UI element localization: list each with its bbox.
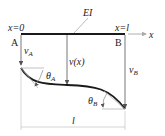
label-theta-a: θA <box>46 70 56 83</box>
label-x-axis: x <box>148 29 154 40</box>
label-b: B <box>115 37 122 48</box>
label-length: l <box>72 115 75 126</box>
theta-b-arc <box>103 93 107 107</box>
label-x0: x=0 <box>7 22 24 33</box>
theta-b-tangent <box>104 91 125 109</box>
label-ei: EI <box>82 7 93 18</box>
label-v-a: vA <box>24 45 33 58</box>
label-a: A <box>11 37 19 48</box>
beam-deflection-diagram: x=0 x=l EI x A B vA v(x) vB θA θB l <box>0 0 165 136</box>
label-theta-b: θB <box>88 95 98 108</box>
label-v-x: v(x) <box>69 56 85 68</box>
label-v-b: vB <box>129 64 138 77</box>
label-xl: x=l <box>114 22 129 33</box>
ei-leader <box>74 18 88 33</box>
deflection-curve <box>21 68 125 109</box>
